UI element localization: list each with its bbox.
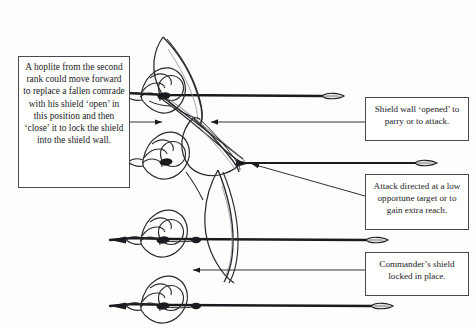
callout-second-rank: A hoplite from the second rank could mov… (18, 56, 130, 188)
callout-shield-wall-opened: Shield wall ‘opened’ to parry or to atta… (365, 97, 469, 141)
diagram-page: A hoplite from the second rank could mov… (0, 0, 476, 330)
callout-commander-shield: Commander’s shield locked in place. (365, 252, 469, 296)
callout-attack-directed: Attack directed at a low opportune targe… (365, 174, 469, 230)
